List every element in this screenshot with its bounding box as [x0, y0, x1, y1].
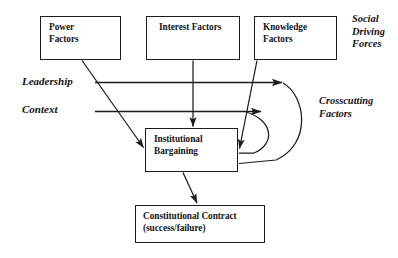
diagram-canvas: Power Factors Interest Factors Knowledge… — [0, 0, 398, 258]
label-social-driving-forces-line-1: Social — [352, 13, 385, 26]
node-institutional-bargaining[interactable]: Institutional Bargaining — [145, 128, 238, 172]
node-institutional-bargaining-line-1: Institutional — [154, 133, 237, 145]
edge-knowledge-to-institutional — [240, 61, 258, 149]
label-context: Context — [22, 103, 57, 116]
label-crosscutting-factors: Crosscutting Factors — [319, 95, 373, 120]
node-interest-factors-line-1: Interest Factors — [159, 21, 239, 33]
label-social-driving-forces: Social Driving Forces — [352, 13, 385, 51]
node-power-factors[interactable]: Power Factors — [40, 16, 121, 60]
node-power-factors-line-1: Power — [49, 21, 120, 33]
edge-feedback-outer-arc — [239, 83, 302, 164]
node-knowledge-factors-line-1: Knowledge — [263, 21, 336, 33]
node-knowledge-factors-line-2: Factors — [263, 33, 336, 45]
node-constitutional-contract-line-1: Constitutional Contract — [143, 210, 264, 222]
edge-power-to-institutional — [82, 61, 144, 148]
label-social-driving-forces-line-2: Driving — [352, 26, 385, 39]
node-knowledge-factors[interactable]: Knowledge Factors — [254, 16, 337, 60]
node-power-factors-line-2: Factors — [49, 33, 120, 45]
node-interest-factors[interactable]: Interest Factors — [146, 16, 240, 60]
edge-feedback-inner-arc — [239, 112, 269, 153]
node-constitutional-contract-line-2: (success/failure) — [143, 222, 264, 234]
edge-institutional-to-constitutional — [183, 173, 197, 204]
label-leadership: Leadership — [22, 75, 73, 88]
node-institutional-bargaining-line-2: Bargaining — [154, 145, 237, 157]
label-crosscutting-factors-line-2: Factors — [319, 108, 373, 121]
node-constitutional-contract[interactable]: Constitutional Contract (success/failure… — [135, 205, 265, 243]
label-social-driving-forces-line-3: Forces — [352, 38, 385, 51]
label-crosscutting-factors-line-1: Crosscutting — [319, 95, 373, 108]
